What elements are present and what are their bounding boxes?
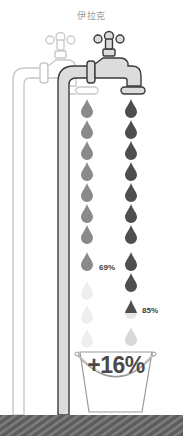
drop-icon (81, 252, 93, 271)
drop-icon (125, 99, 137, 118)
light-percent-label: 69% (99, 263, 115, 272)
faint-drop-icon (81, 305, 93, 324)
light-pipe (13, 63, 48, 415)
drop-icon (125, 162, 137, 181)
drop-icon (125, 273, 137, 292)
partial-drop-icon (125, 300, 137, 319)
drop-icon (81, 204, 93, 223)
dark-drops (125, 99, 137, 346)
dark-valve-handle-icon (94, 32, 124, 50)
dark-faucet (94, 32, 145, 95)
drop-icon (81, 141, 93, 160)
faint-drop-icon (81, 281, 93, 300)
light-valve-handle-icon (46, 33, 75, 51)
drop-icon (125, 204, 137, 223)
ground (0, 415, 183, 436)
faint-drop-icon (125, 327, 137, 346)
drop-icon (125, 225, 137, 244)
drop-icon (81, 120, 93, 139)
drop-icon (125, 141, 137, 160)
drop-icon (125, 252, 137, 271)
drop-icon (125, 183, 137, 202)
drop-icon (81, 225, 93, 244)
drop-icon (125, 120, 137, 139)
drop-icon (81, 99, 93, 118)
faint-drop-icon (81, 329, 93, 348)
difference-label: +16% (78, 352, 154, 379)
dark-percent-label: 85% (142, 306, 158, 315)
drop-icon (81, 162, 93, 181)
drop-icon (81, 183, 93, 202)
light-drops (81, 99, 93, 348)
